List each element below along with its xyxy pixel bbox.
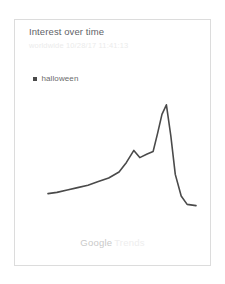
legend-item-label[interactable]: halloween xyxy=(42,74,79,84)
square-marker-icon xyxy=(33,77,37,81)
card-header: Interest over time worldwide 10/28/17 11… xyxy=(29,26,200,51)
chart-legend: halloween xyxy=(33,74,78,84)
screenshot-root: Interest over time worldwide 10/28/17 11… xyxy=(0,0,225,284)
page-title: Interest over time xyxy=(29,26,200,38)
series-line-halloween xyxy=(48,105,196,206)
card-subtitle-timestamp: worldwide 10/28/17 11:41:13 xyxy=(29,41,200,51)
interest-over-time-card: Interest over time worldwide 10/28/17 11… xyxy=(14,19,211,266)
google-wordmark: Google xyxy=(80,237,112,248)
line-chart-plot xyxy=(15,92,210,232)
chart-svg xyxy=(15,92,210,232)
trends-wordmark: Trends xyxy=(114,237,144,248)
brand-footer: GoogleTrends xyxy=(15,232,210,250)
